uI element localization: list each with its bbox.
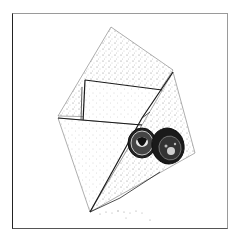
shadow xyxy=(99,210,150,220)
envelope-illustration xyxy=(0,0,241,242)
